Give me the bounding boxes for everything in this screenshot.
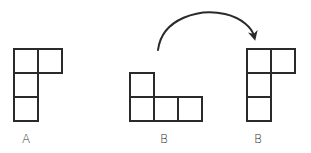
shape-a — [14, 49, 62, 121]
shape-b-rotated-label: B — [254, 132, 262, 146]
shape-b-cell — [154, 97, 178, 121]
rotation-arrow-icon — [158, 12, 254, 50]
shape-b-rotated-cell — [247, 97, 271, 121]
shape-a-label: A — [22, 132, 30, 146]
shape-a-cell — [38, 49, 62, 73]
shape-b-cell — [130, 73, 154, 97]
shape-b-original — [130, 73, 202, 121]
shape-b-original-label: B — [160, 132, 168, 146]
shape-b-rotated-cell — [271, 49, 295, 73]
shape-b-rotated-cell — [247, 49, 271, 73]
shape-b-cell — [130, 97, 154, 121]
diagram-canvas: A B B — [0, 0, 311, 153]
shape-b-rotated — [247, 49, 295, 121]
shape-a-cell — [14, 97, 38, 121]
shape-b-rotated-cell — [247, 73, 271, 97]
shape-a-cell — [14, 73, 38, 97]
shape-b-cell — [178, 97, 202, 121]
shape-a-cell — [14, 49, 38, 73]
